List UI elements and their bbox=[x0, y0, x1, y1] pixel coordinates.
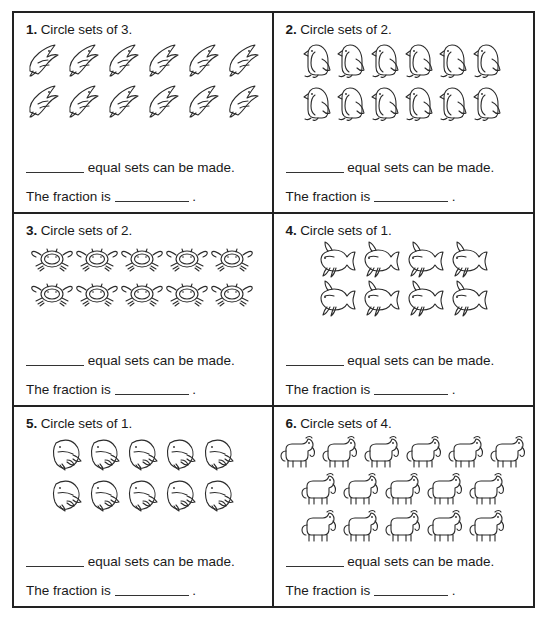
penguin-icon bbox=[472, 82, 504, 124]
penguin-icon bbox=[404, 39, 436, 81]
goldfish-icon bbox=[360, 240, 402, 278]
object-row bbox=[299, 507, 507, 543]
dog-icon bbox=[362, 433, 402, 469]
dog-icon bbox=[467, 470, 507, 506]
dog-icon bbox=[341, 470, 381, 506]
dog-icon bbox=[467, 507, 507, 543]
fraction-answer-blank-6[interactable] bbox=[374, 583, 448, 596]
fraction-answer-period-6: . bbox=[452, 583, 456, 598]
whale-icon bbox=[201, 433, 237, 473]
problem-instruction-2: Circle sets of 2. bbox=[300, 22, 391, 37]
crab-icon bbox=[31, 275, 74, 309]
answer-lines-1: equal sets can be made.The fraction is . bbox=[24, 160, 262, 204]
problem-panel-1: 1. Circle sets of 3. equal sets can be m… bbox=[14, 13, 274, 214]
problem-prompt-4: 4. Circle sets of 1. bbox=[286, 223, 524, 238]
penguin-icon bbox=[302, 39, 334, 81]
object-group-1 bbox=[24, 39, 262, 120]
sets-answer-label-5: equal sets can be made. bbox=[88, 554, 235, 569]
fraction-answer-label-2: The fraction is bbox=[286, 189, 371, 204]
object-row bbox=[316, 279, 490, 317]
problem-instruction-5: Circle sets of 1. bbox=[41, 416, 132, 431]
answer-lines-3: equal sets can be made.The fraction is . bbox=[24, 353, 262, 397]
crab-icon bbox=[166, 240, 209, 274]
sets-answer-blank-4[interactable] bbox=[286, 353, 344, 366]
whale-icon bbox=[163, 433, 199, 473]
crab-icon bbox=[166, 275, 209, 309]
penguin-icon bbox=[370, 39, 402, 81]
answer-lines-5: equal sets can be made.The fraction is . bbox=[24, 554, 262, 598]
sets-answer-blank-5[interactable] bbox=[26, 554, 84, 567]
whale-icon bbox=[49, 474, 85, 514]
dog-icon bbox=[320, 433, 360, 469]
problem-number-2: 2. bbox=[286, 22, 297, 37]
object-row bbox=[24, 39, 262, 79]
crab-icon bbox=[31, 240, 74, 274]
dolphin-icon bbox=[224, 80, 262, 120]
whale-icon bbox=[201, 474, 237, 514]
sets-answer-blank-3[interactable] bbox=[26, 353, 84, 366]
fraction-answer-period-3: . bbox=[192, 382, 196, 397]
fraction-answer-line-1: The fraction is . bbox=[24, 189, 262, 204]
sets-answer-blank-2[interactable] bbox=[286, 160, 344, 173]
fraction-answer-blank-1[interactable] bbox=[115, 189, 189, 202]
sets-answer-blank-6[interactable] bbox=[286, 554, 344, 567]
whale-icon bbox=[87, 474, 123, 514]
object-row bbox=[302, 82, 504, 124]
sets-answer-line-6: equal sets can be made. bbox=[284, 554, 524, 569]
problem-panel-4: 4. Circle sets of 1. equal sets can be m… bbox=[274, 214, 534, 407]
fraction-answer-line-6: The fraction is . bbox=[284, 583, 524, 598]
dolphin-icon bbox=[24, 39, 62, 79]
dog-icon bbox=[446, 433, 486, 469]
fraction-answer-line-2: The fraction is . bbox=[284, 189, 524, 204]
fraction-answer-label-5: The fraction is bbox=[26, 583, 111, 598]
goldfish-icon bbox=[448, 279, 490, 317]
problem-instruction-1: Circle sets of 3. bbox=[41, 22, 132, 37]
dolphin-icon bbox=[144, 80, 182, 120]
fraction-answer-label-3: The fraction is bbox=[26, 382, 111, 397]
object-row bbox=[278, 433, 528, 469]
problem-prompt-3: 3. Circle sets of 2. bbox=[26, 223, 262, 238]
answer-lines-6: equal sets can be made.The fraction is . bbox=[284, 554, 524, 598]
sets-answer-line-4: equal sets can be made. bbox=[284, 353, 524, 368]
fraction-answer-blank-4[interactable] bbox=[374, 382, 448, 395]
fraction-answer-period-2: . bbox=[452, 189, 456, 204]
sets-answer-line-3: equal sets can be made. bbox=[24, 353, 262, 368]
goldfish-icon bbox=[360, 279, 402, 317]
fraction-answer-line-4: The fraction is . bbox=[284, 382, 524, 397]
sets-answer-label-2: equal sets can be made. bbox=[347, 160, 494, 175]
object-row bbox=[316, 240, 490, 278]
dog-icon bbox=[425, 507, 465, 543]
penguin-icon bbox=[438, 39, 470, 81]
dolphin-icon bbox=[64, 80, 102, 120]
penguin-icon bbox=[302, 82, 334, 124]
penguin-icon bbox=[404, 82, 436, 124]
goldfish-icon bbox=[404, 240, 446, 278]
sets-answer-label-3: equal sets can be made. bbox=[88, 353, 235, 368]
penguin-icon bbox=[336, 82, 368, 124]
fraction-answer-blank-2[interactable] bbox=[374, 189, 448, 202]
problem-instruction-4: Circle sets of 1. bbox=[300, 223, 391, 238]
problem-panel-2: 2. Circle sets of 2. equal sets can be m… bbox=[274, 13, 534, 214]
problem-panel-6: 6. Circle sets of 4. equal sets can be m… bbox=[274, 407, 534, 606]
dog-icon bbox=[488, 433, 528, 469]
dog-icon bbox=[425, 470, 465, 506]
fraction-answer-line-3: The fraction is . bbox=[24, 382, 262, 397]
fraction-answer-label-4: The fraction is bbox=[286, 382, 371, 397]
whale-icon bbox=[49, 433, 85, 473]
answer-lines-2: equal sets can be made.The fraction is . bbox=[284, 160, 524, 204]
crab-icon bbox=[211, 240, 254, 274]
fraction-answer-blank-5[interactable] bbox=[115, 583, 189, 596]
object-group-2 bbox=[284, 39, 524, 124]
sets-answer-label-6: equal sets can be made. bbox=[347, 554, 494, 569]
object-row bbox=[302, 39, 504, 81]
worksheet-grid: 1. Circle sets of 3. equal sets can be m… bbox=[12, 11, 535, 608]
problem-panel-5: 5. Circle sets of 1. equal sets can be m… bbox=[14, 407, 274, 606]
dolphin-icon bbox=[104, 39, 142, 79]
sets-answer-blank-1[interactable] bbox=[26, 160, 84, 173]
object-row bbox=[299, 470, 507, 506]
object-row bbox=[24, 80, 262, 120]
fraction-answer-blank-3[interactable] bbox=[115, 382, 189, 395]
problem-instruction-6: Circle sets of 4. bbox=[300, 416, 391, 431]
problem-number-1: 1. bbox=[26, 22, 37, 37]
crab-icon bbox=[76, 275, 119, 309]
